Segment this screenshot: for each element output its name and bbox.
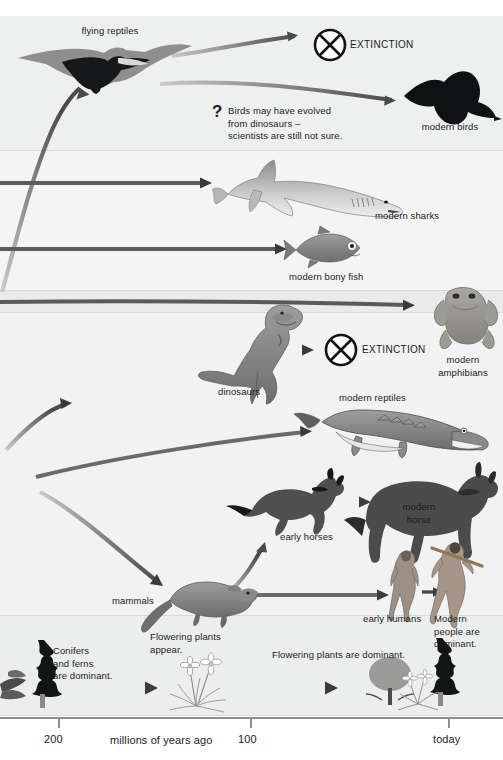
timeline-axis — [0, 717, 503, 719]
arrow-mammals-to-early-humans — [246, 590, 389, 601]
arrow-ancestor-to-mammals — [40, 492, 163, 586]
axis-tick-today — [448, 717, 450, 728]
flying-reptiles-icon — [18, 44, 192, 94]
label-dinosaurs: dinosaurs — [218, 386, 260, 399]
arrow-early-horses-to-modern-horse — [332, 497, 371, 508]
extinction-symbol-top — [315, 30, 345, 60]
label-flowering-appear: Flowering plants appear. — [150, 631, 260, 656]
label-extinction-dinosaurs: EXTINCTION — [362, 344, 426, 357]
early-horses-icon — [226, 468, 344, 536]
arrow-flying-reptiles-to-extinction — [172, 32, 298, 57]
label-modern-reptiles: modern reptiles — [339, 392, 406, 405]
axis-label-today: today — [433, 733, 460, 746]
annotation-birds-note: Birds may have evolved from dinosaurs – … — [228, 105, 388, 143]
arrow-flying-reptiles-to-modern-birds — [160, 83, 396, 106]
arrow-conifers-to-flowering — [66, 682, 158, 695]
label-modern-people: Modern people are dominant. — [434, 613, 502, 651]
label-early-humans: early humans — [363, 613, 421, 626]
mammals-icon — [141, 582, 258, 632]
arrow-ancestor-to-flying-reptiles — [2, 88, 90, 292]
arrow-ancestor-to-dinosaurs — [6, 398, 72, 450]
axis-label-100: 100 — [238, 733, 257, 746]
label-modern-birds: modern birds — [404, 121, 496, 134]
label-early-horses: early horses — [280, 531, 333, 544]
label-mammals: mammals — [112, 595, 154, 608]
arrow-ancestor-to-modern-reptiles — [36, 426, 312, 477]
label-modern-horse: modern horse — [392, 501, 446, 526]
modern-bony-fish-icon — [284, 226, 360, 268]
axis-tick-100 — [250, 717, 252, 728]
axis-label-200: 200 — [44, 733, 63, 746]
label-flying-reptiles: flying reptiles — [60, 25, 160, 38]
label-extinction-top: EXTINCTION — [350, 39, 414, 52]
evolution-timeline-diagram: flying reptiles EXTINCTION ? Birds may h… — [0, 0, 503, 760]
label-modern-amphibians: modern amphibians — [424, 354, 502, 379]
arrow-to-modern-amphibians — [0, 300, 415, 311]
extinction-symbol-dinosaurs — [326, 335, 356, 365]
axis-tick-200 — [58, 717, 60, 728]
label-modern-bony-fish: modern bony fish — [289, 271, 363, 284]
axis-caption: millions of years ago — [110, 734, 212, 747]
arrow-to-modern-bony-fish — [0, 244, 287, 255]
arrow-flowering-to-dominant — [236, 682, 338, 695]
label-flowering-dominant: Flowering plants are dominant. — [272, 649, 405, 662]
label-conifers: Conifers and ferns are dominant. — [53, 645, 143, 683]
label-modern-sharks: modern sharks — [375, 210, 439, 223]
question-mark-icon: ? — [212, 102, 222, 122]
modern-birds-icon — [404, 71, 502, 124]
modern-reptiles-icon — [294, 410, 488, 458]
early-humans-icon — [389, 551, 418, 623]
flowering-plant-icon — [170, 653, 226, 712]
modern-amphibians-icon — [434, 288, 497, 349]
modern-sharks-icon — [212, 160, 403, 217]
